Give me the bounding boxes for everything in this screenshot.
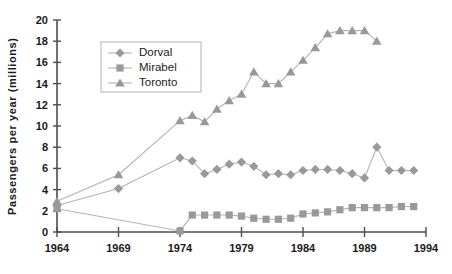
y-axis-tick-label: 12	[36, 99, 48, 111]
data-point-toronto	[188, 111, 198, 119]
series-line-mirabel	[57, 207, 414, 231]
y-axis-tick-label: 14	[36, 78, 49, 90]
data-point-dorval	[311, 165, 320, 174]
data-point-dorval	[114, 184, 123, 193]
data-point-dorval	[385, 166, 394, 175]
data-point-mirabel	[410, 203, 417, 210]
x-axis-tick-label: 1964	[45, 242, 70, 254]
data-point-mirabel	[373, 204, 380, 211]
y-axis-tick-label: 20	[36, 14, 48, 26]
x-axis-tick-label: 1984	[291, 242, 316, 254]
passenger-traffic-line-chart: 02468101214161820 1964196919741979198419…	[0, 0, 452, 274]
y-axis-tick-label: 2	[42, 205, 48, 217]
x-axis-tick-label: 1989	[352, 242, 376, 254]
data-point-dorval	[225, 160, 234, 169]
data-point-mirabel	[398, 203, 405, 210]
y-axis-tick-label: 16	[36, 56, 48, 68]
data-point-mirabel	[275, 216, 282, 223]
data-point-mirabel	[226, 211, 233, 218]
data-point-toronto	[212, 104, 222, 112]
data-point-dorval	[360, 173, 369, 182]
data-point-toronto	[224, 96, 234, 104]
series-dorval	[52, 143, 418, 211]
x-axis-tick-label: 1969	[106, 242, 130, 254]
data-point-mirabel	[299, 210, 306, 217]
y-axis-tick-label: 0	[42, 226, 48, 238]
data-point-dorval	[262, 170, 271, 179]
series-line-dorval	[57, 147, 414, 205]
y-axis-tick-label: 18	[36, 35, 48, 47]
x-axis: 1964196919741979198419891994	[45, 227, 439, 254]
data-point-mirabel	[201, 211, 208, 218]
data-point-toronto	[249, 67, 259, 75]
y-axis-tick-label: 4	[42, 184, 49, 196]
data-point-dorval	[372, 143, 381, 152]
data-point-dorval	[335, 166, 344, 175]
data-point-mirabel	[189, 211, 196, 218]
legend-label-dorval: Dorval	[139, 46, 172, 58]
data-point-mirabel	[213, 211, 220, 218]
x-axis-tick-label: 1979	[229, 242, 253, 254]
data-point-mirabel	[176, 227, 183, 234]
series-mirabel	[53, 203, 417, 235]
data-point-mirabel	[336, 206, 343, 213]
legend-marker-mirabel	[116, 64, 123, 71]
data-point-toronto	[52, 197, 62, 205]
x-axis-tick-label: 1994	[414, 242, 439, 254]
y-axis-title: Passengers per year (millions)	[6, 37, 18, 215]
data-point-mirabel	[53, 205, 60, 212]
data-point-dorval	[175, 153, 184, 162]
data-point-mirabel	[312, 209, 319, 216]
data-point-mirabel	[238, 213, 245, 220]
y-axis-tick-label: 10	[36, 120, 48, 132]
chart-legend: DorvalMirabelToronto	[101, 42, 201, 92]
data-point-dorval	[212, 165, 221, 174]
data-point-toronto	[237, 90, 247, 98]
data-point-dorval	[348, 169, 357, 178]
y-axis-tick-label: 8	[42, 141, 48, 153]
data-point-dorval	[249, 162, 258, 171]
data-point-dorval	[286, 170, 295, 179]
legend-label-mirabel: Mirabel	[139, 61, 177, 73]
data-point-mirabel	[250, 215, 257, 222]
data-point-toronto	[175, 116, 185, 124]
data-point-mirabel	[361, 204, 368, 211]
x-axis-tick-label: 1974	[168, 242, 193, 254]
data-point-dorval	[323, 165, 332, 174]
data-point-dorval	[409, 166, 418, 175]
data-point-mirabel	[287, 215, 294, 222]
y-axis-tick-label: 6	[42, 162, 48, 174]
data-point-dorval	[274, 169, 283, 178]
data-point-mirabel	[324, 208, 331, 215]
data-point-mirabel	[263, 216, 270, 223]
legend-label-toronto: Toronto	[139, 76, 177, 88]
data-point-mirabel	[349, 204, 356, 211]
data-point-dorval	[237, 157, 246, 166]
data-point-mirabel	[386, 204, 393, 211]
data-point-dorval	[397, 166, 406, 175]
chart-plot-area: 02468101214161820 1964196919741979198419…	[0, 0, 452, 274]
data-point-dorval	[298, 166, 307, 175]
